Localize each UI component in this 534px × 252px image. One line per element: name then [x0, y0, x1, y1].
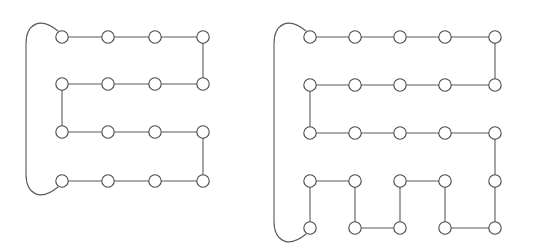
graph-node [149, 175, 161, 187]
graph-wrap-edge [274, 23, 306, 242]
graph-node [394, 79, 406, 91]
graph-node [197, 31, 209, 43]
right-graph-panel [274, 23, 501, 242]
left-graph-edges [26, 23, 203, 195]
graph-node [197, 175, 209, 187]
graph-node [56, 175, 68, 187]
graph-node [439, 175, 451, 187]
graph-node [394, 31, 406, 43]
graph-node [304, 175, 316, 187]
graph-node [439, 127, 451, 139]
left-graph-nodes [56, 31, 209, 187]
two-graph-figure [0, 0, 534, 252]
graph-node [349, 31, 361, 43]
graph-wrap-edge [26, 23, 58, 195]
graph-node [304, 127, 316, 139]
graph-node [56, 31, 68, 43]
graph-node [489, 222, 501, 234]
graph-node [349, 79, 361, 91]
graph-node [349, 175, 361, 187]
graph-node [489, 31, 501, 43]
graph-node [149, 126, 161, 138]
graph-node [489, 175, 501, 187]
graph-node [56, 78, 68, 90]
graph-node [102, 78, 114, 90]
graph-node [197, 126, 209, 138]
graph-node [439, 31, 451, 43]
graph-node [349, 127, 361, 139]
graph-node [102, 175, 114, 187]
graph-node [102, 31, 114, 43]
graph-node [394, 222, 406, 234]
graph-node [394, 127, 406, 139]
graph-node [149, 78, 161, 90]
graph-node [149, 31, 161, 43]
graph-node [489, 127, 501, 139]
left-graph-panel [26, 23, 209, 195]
graph-node [102, 126, 114, 138]
graph-node [304, 31, 316, 43]
graph-node [304, 222, 316, 234]
graph-node [349, 222, 361, 234]
graph-node [56, 126, 68, 138]
graph-node [439, 79, 451, 91]
graph-node [489, 79, 501, 91]
graph-node [439, 222, 451, 234]
graph-node [394, 175, 406, 187]
graph-node [304, 79, 316, 91]
graph-node [197, 78, 209, 90]
